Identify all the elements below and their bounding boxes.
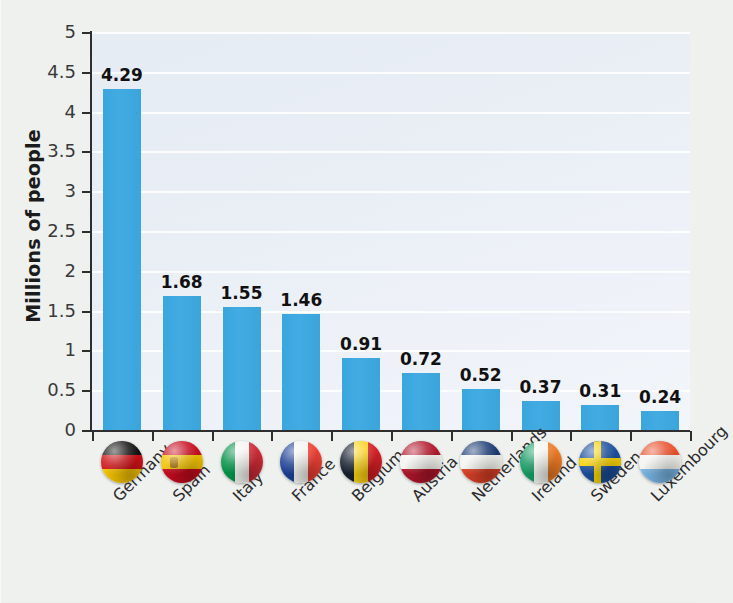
x-tick-mark: [511, 431, 513, 441]
y-tick-label: 3.5: [40, 140, 76, 161]
x-tick-mark: [271, 431, 273, 441]
x-tick-mark: [331, 431, 333, 441]
y-tick-mark: [82, 390, 91, 392]
y-tick-mark: [82, 151, 91, 153]
x-tick-mark: [570, 431, 572, 441]
y-axis-title: Millions of people: [22, 121, 44, 331]
gridline: [92, 32, 690, 34]
gridline: [92, 72, 690, 74]
y-tick-label: 5: [40, 21, 76, 42]
gridline: [92, 151, 690, 153]
bar-value-label: 0.37: [509, 377, 573, 397]
y-tick-mark: [82, 430, 91, 432]
gridline: [92, 191, 690, 193]
y-tick-mark: [82, 311, 91, 313]
bar-value-label: 0.52: [449, 365, 513, 385]
flag-belgium-icon: [340, 441, 382, 483]
x-tick-mark: [451, 431, 453, 441]
y-tick-mark: [82, 191, 91, 193]
x-tick-mark: [391, 431, 393, 441]
x-tick-mark: [212, 431, 214, 441]
chart-plot-area: [92, 32, 690, 430]
flag-netherlands-icon: [460, 441, 502, 483]
y-tick-label: 2: [40, 260, 76, 281]
y-tick-mark: [82, 112, 91, 114]
y-tick-mark: [82, 32, 91, 34]
bar-value-label: 1.55: [210, 283, 274, 303]
bar-value-label: 0.31: [568, 381, 632, 401]
bar: [103, 89, 141, 430]
x-tick-mark: [92, 431, 94, 441]
flag-france-icon: [280, 441, 322, 483]
bar-value-label: 0.72: [389, 349, 453, 369]
x-tick-mark: [690, 431, 692, 441]
bar-value-label: 4.29: [90, 65, 154, 85]
flag-italy-icon: [221, 441, 263, 483]
flag-ireland-icon: [520, 441, 562, 483]
y-tick-label: 0.5: [40, 379, 76, 400]
bar-value-label: 0.91: [329, 334, 393, 354]
flag-germany-icon: [101, 441, 143, 483]
bar-value-label: 1.68: [150, 272, 214, 292]
flag-austria-icon: [400, 441, 442, 483]
x-tick-mark: [152, 431, 154, 441]
gridline: [92, 231, 690, 233]
y-tick-label: 4.5: [40, 61, 76, 82]
y-tick-label: 1: [40, 339, 76, 360]
x-tick-mark: [630, 431, 632, 441]
bar-value-label: 1.46: [269, 290, 333, 310]
flag-spain-icon: [161, 441, 203, 483]
y-tick-label: 3: [40, 180, 76, 201]
y-tick-mark: [82, 271, 91, 273]
y-tick-mark: [82, 231, 91, 233]
flag-luxembourg-icon: [639, 441, 681, 483]
flag-sweden-icon: [579, 441, 621, 483]
y-tick-label: 4: [40, 101, 76, 122]
y-tick-label: 2.5: [40, 220, 76, 241]
gridline: [92, 112, 690, 114]
y-tick-mark: [82, 350, 91, 352]
y-tick-label: 1.5: [40, 300, 76, 321]
y-tick-label: 0: [40, 419, 76, 440]
